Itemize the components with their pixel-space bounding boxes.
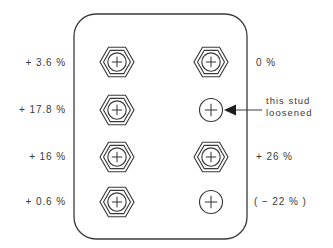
plate-outline [74, 14, 247, 239]
callout-text-line-2: loosened [266, 107, 313, 118]
stud-value-label-right-1: 0 % [256, 57, 276, 68]
stud-distribution-diagram: + 3.6 %+ 17.8 %+ 16 %+ 0.6 %0 %+ 26 %( −… [0, 0, 333, 248]
stud-value-label-left-4: + 0.6 % [26, 196, 67, 207]
stud-value-label-left-3: + 16 % [29, 151, 66, 162]
stud-value-label-right-2: + 26 % [256, 151, 293, 162]
stud-value-label-right-3: ( − 22 % ) [254, 196, 307, 207]
diagram-canvas: + 3.6 %+ 17.8 %+ 16 %+ 0.6 %0 %+ 26 %( −… [0, 0, 333, 248]
stud-value-label-left-1: + 3.6 % [26, 57, 67, 68]
callout-text-line-1: this stud [266, 95, 310, 106]
stud-value-label-left-2: + 17.8 % [19, 104, 66, 115]
